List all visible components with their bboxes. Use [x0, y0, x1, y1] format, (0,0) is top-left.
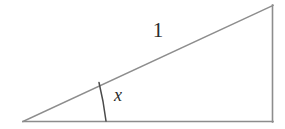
hypotenuse-length-label: 1	[147, 20, 169, 41]
triangle-diagram-svg	[0, 0, 285, 129]
angle-variable-label: x	[108, 86, 128, 104]
angle-arc-mark	[99, 83, 106, 122]
triangle-figure: 1 x	[0, 0, 285, 129]
